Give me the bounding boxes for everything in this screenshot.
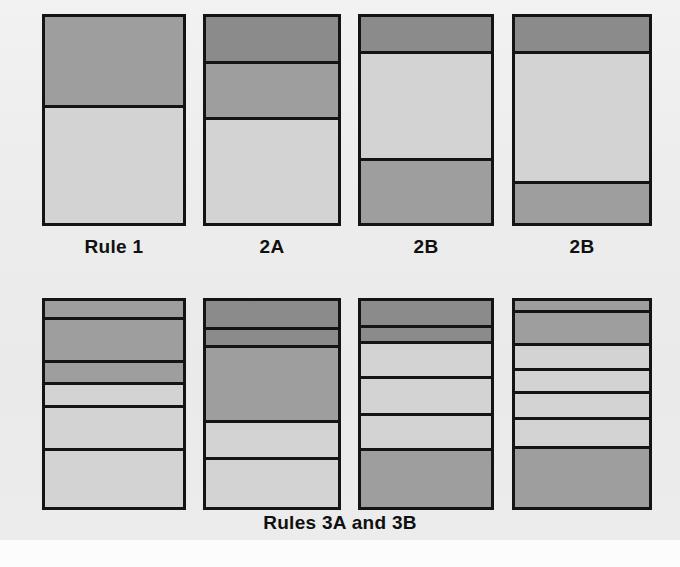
band-col-6-2-dark <box>206 330 338 349</box>
column-stack-col-6 <box>203 298 341 510</box>
band-col-7-2-dark <box>361 328 491 344</box>
band-col-4-2-light <box>515 54 649 184</box>
column-stack-col-4 <box>512 14 652 226</box>
column-label-col-4: 2B <box>512 236 652 258</box>
band-col-7-3-light <box>361 344 491 379</box>
column-label-col-2: 2A <box>203 236 341 258</box>
band-col-8-1-medium <box>515 301 649 313</box>
column-label-col-1: Rule 1 <box>42 236 186 258</box>
band-col-7-4-light <box>361 379 491 416</box>
band-col-6-4-light <box>206 423 338 460</box>
band-col-2-3-light <box>206 120 338 223</box>
band-col-5-4-light <box>45 385 183 408</box>
band-col-8-6-light <box>515 420 649 449</box>
band-col-5-1-medium <box>45 301 183 320</box>
band-col-3-2-light <box>361 54 491 161</box>
column-stack-col-5 <box>42 298 186 510</box>
band-col-4-1-dark <box>515 17 649 54</box>
band-col-7-6-medium <box>361 451 491 507</box>
column-stack-col-2 <box>203 14 341 226</box>
band-col-2-2-medium <box>206 64 338 120</box>
column-stack-col-3 <box>358 14 494 226</box>
band-col-8-7-medium <box>515 449 649 507</box>
band-col-3-3-medium <box>361 161 491 223</box>
band-col-1-2-light <box>45 108 183 223</box>
column-stack-col-8 <box>512 298 652 510</box>
band-col-6-5-light <box>206 460 338 507</box>
column-label-col-3: 2B <box>358 236 494 258</box>
band-col-5-3-medium <box>45 363 183 386</box>
band-col-5-6-light <box>45 451 183 507</box>
band-col-8-3-light <box>515 346 649 371</box>
figure-canvas: Rule 12A2B2B Rules 3A and 3B <box>0 0 680 567</box>
column-stack-col-7 <box>358 298 494 510</box>
band-col-2-1-dark <box>206 17 338 64</box>
band-col-3-1-dark <box>361 17 491 54</box>
band-col-5-2-medium <box>45 320 183 363</box>
band-col-1-1-medium <box>45 17 183 108</box>
band-col-8-4-light <box>515 371 649 394</box>
bottom-caption: Rules 3A and 3B <box>0 512 680 534</box>
band-col-8-5-light <box>515 394 649 421</box>
diagram-row-top: Rule 12A2B2B <box>0 0 680 283</box>
band-col-7-1-dark <box>361 301 491 328</box>
band-col-4-3-medium <box>515 184 649 223</box>
column-stack-col-1 <box>42 14 186 226</box>
band-col-5-5-light <box>45 408 183 451</box>
band-col-8-2-medium <box>515 313 649 346</box>
band-col-6-1-dark <box>206 301 338 330</box>
band-col-6-3-medium <box>206 348 338 422</box>
band-col-7-5-light <box>361 416 491 451</box>
